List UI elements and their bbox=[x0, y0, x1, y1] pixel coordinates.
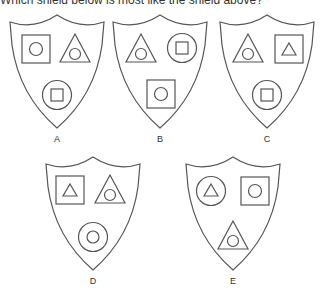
shield-b[interactable] bbox=[113, 15, 207, 128]
square-with-circle-icon bbox=[241, 177, 269, 205]
shield-a[interactable] bbox=[10, 15, 104, 128]
triangle-with-circle-icon bbox=[218, 221, 248, 249]
option-label-b: B bbox=[150, 134, 170, 144]
circle-with-circle-icon bbox=[79, 223, 108, 252]
circle-with-square-icon bbox=[43, 81, 72, 110]
square-with-circle-icon bbox=[147, 80, 175, 108]
option-label-e: E bbox=[223, 276, 243, 286]
option-label-a: A bbox=[47, 134, 67, 144]
square-with-circle-icon bbox=[22, 35, 50, 63]
triangle-with-circle-icon bbox=[126, 34, 156, 62]
circle-with-square-icon bbox=[253, 81, 282, 110]
circle-with-triangle-icon bbox=[197, 177, 226, 206]
shield-e[interactable] bbox=[186, 157, 280, 270]
square-with-triangle-icon bbox=[275, 35, 303, 63]
triangle-with-circle-icon bbox=[60, 34, 90, 62]
shield-c[interactable] bbox=[220, 15, 314, 128]
triangle-with-circle-icon bbox=[95, 175, 125, 203]
triangle-with-circle-icon bbox=[233, 34, 263, 62]
option-label-d: D bbox=[83, 276, 103, 286]
square-with-triangle-icon bbox=[56, 176, 84, 204]
circle-with-square-icon bbox=[168, 34, 197, 63]
option-label-c: C bbox=[257, 134, 277, 144]
shield-d[interactable] bbox=[46, 157, 140, 270]
